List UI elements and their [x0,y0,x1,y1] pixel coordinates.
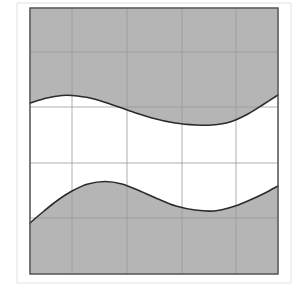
figure-container [0,0,298,292]
figure-canvas [0,0,298,292]
